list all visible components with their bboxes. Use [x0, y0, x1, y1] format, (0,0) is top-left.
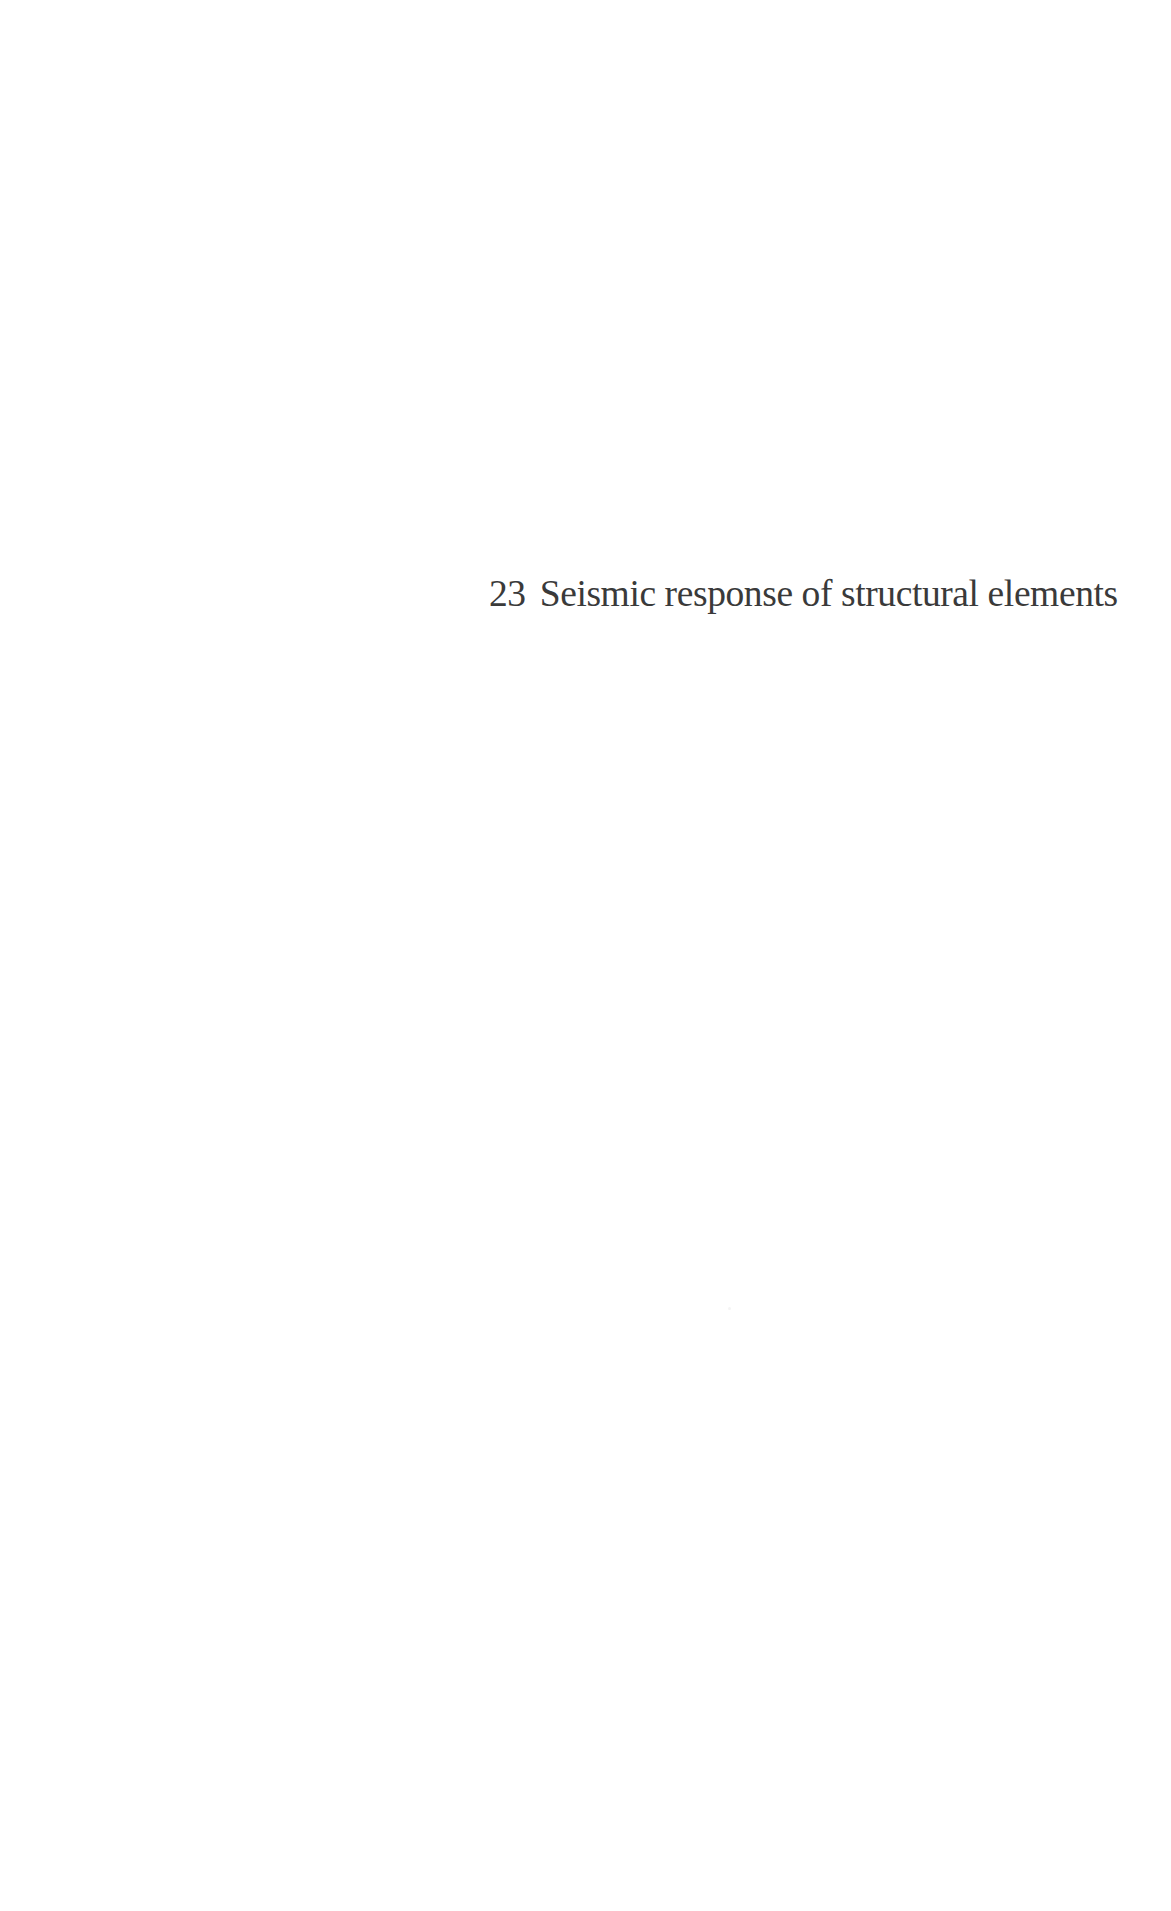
- scan-speck: [728, 1307, 731, 1310]
- document-page: 23Seismic response of structural element…: [0, 0, 1171, 1911]
- chapter-heading: 23Seismic response of structural element…: [489, 572, 1118, 616]
- chapter-number: 23: [489, 572, 526, 616]
- chapter-title: Seismic response of structural elements: [540, 573, 1118, 614]
